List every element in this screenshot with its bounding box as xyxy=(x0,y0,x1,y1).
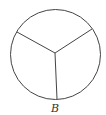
spoke-left xyxy=(17,32,55,53)
spoke-right xyxy=(55,29,92,53)
spoke-bottom xyxy=(55,53,57,99)
circle-divided-into-three-diagram xyxy=(0,0,106,115)
diagram-label: B xyxy=(51,103,59,114)
